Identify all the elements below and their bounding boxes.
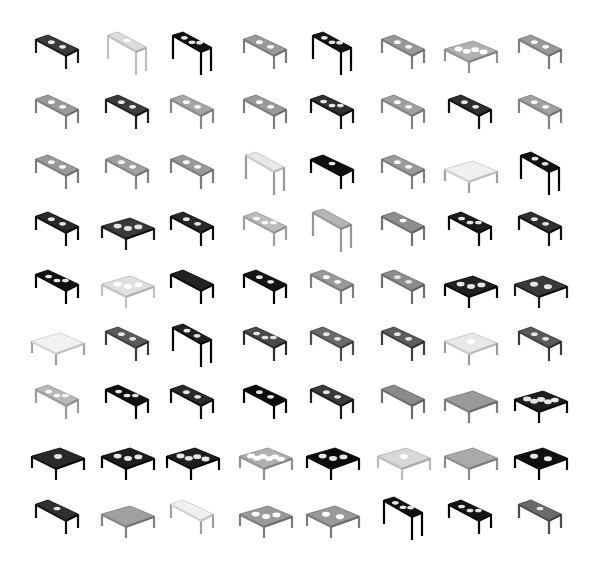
table-thumbnail bbox=[159, 319, 225, 375]
table-thumbnail bbox=[159, 204, 225, 260]
table-thumbnail bbox=[94, 377, 160, 433]
table-thumbnail bbox=[299, 492, 365, 548]
table-thumbnail bbox=[24, 87, 90, 143]
table-thumbnail bbox=[370, 87, 436, 143]
table-thumbnail bbox=[370, 377, 436, 433]
table-thumbnail bbox=[507, 147, 573, 203]
table-thumbnail bbox=[159, 492, 225, 548]
table-thumbnail bbox=[232, 492, 298, 548]
table-thumbnail bbox=[507, 262, 573, 318]
table-thumbnail bbox=[24, 147, 90, 203]
table-thumbnail bbox=[437, 147, 503, 203]
table-thumbnail bbox=[24, 377, 90, 433]
table-thumbnail bbox=[299, 147, 365, 203]
table-thumbnail bbox=[437, 204, 503, 260]
table-thumbnail bbox=[159, 27, 225, 83]
table-thumbnail bbox=[94, 204, 160, 260]
table-thumbnail bbox=[232, 434, 298, 490]
table-thumbnail bbox=[232, 262, 298, 318]
table-thumbnail bbox=[24, 434, 90, 490]
table-thumbnail bbox=[299, 434, 365, 490]
table-thumbnail bbox=[370, 319, 436, 375]
table-thumbnail bbox=[370, 147, 436, 203]
table-thumbnail bbox=[232, 147, 298, 203]
table-render-grid bbox=[0, 0, 603, 578]
table-thumbnail bbox=[370, 262, 436, 318]
table-thumbnail bbox=[159, 87, 225, 143]
table-thumbnail bbox=[299, 377, 365, 433]
table-thumbnail bbox=[437, 492, 503, 548]
table-thumbnail bbox=[94, 434, 160, 490]
table-thumbnail bbox=[232, 27, 298, 83]
table-thumbnail bbox=[299, 87, 365, 143]
table-thumbnail bbox=[24, 27, 90, 83]
table-thumbnail bbox=[159, 262, 225, 318]
table-thumbnail bbox=[94, 87, 160, 143]
table-thumbnail bbox=[507, 492, 573, 548]
table-thumbnail bbox=[299, 262, 365, 318]
table-thumbnail bbox=[232, 377, 298, 433]
table-thumbnail bbox=[94, 492, 160, 548]
table-thumbnail bbox=[437, 262, 503, 318]
table-thumbnail bbox=[299, 204, 365, 260]
table-thumbnail bbox=[507, 319, 573, 375]
table-thumbnail bbox=[299, 319, 365, 375]
table-thumbnail bbox=[159, 377, 225, 433]
table-thumbnail bbox=[437, 87, 503, 143]
table-thumbnail bbox=[507, 27, 573, 83]
table-thumbnail bbox=[507, 87, 573, 143]
table-thumbnail bbox=[437, 27, 503, 83]
table-thumbnail bbox=[94, 27, 160, 83]
table-thumbnail bbox=[94, 319, 160, 375]
table-thumbnail bbox=[24, 492, 90, 548]
table-thumbnail bbox=[370, 492, 436, 548]
table-thumbnail bbox=[232, 319, 298, 375]
table-thumbnail bbox=[159, 147, 225, 203]
table-thumbnail bbox=[370, 204, 436, 260]
table-thumbnail bbox=[94, 147, 160, 203]
table-thumbnail bbox=[370, 27, 436, 83]
table-thumbnail bbox=[437, 377, 503, 433]
table-thumbnail bbox=[437, 319, 503, 375]
table-thumbnail bbox=[507, 434, 573, 490]
table-thumbnail bbox=[370, 434, 436, 490]
table-thumbnail bbox=[507, 377, 573, 433]
table-thumbnail bbox=[437, 434, 503, 490]
table-thumbnail bbox=[24, 204, 90, 260]
table-thumbnail bbox=[232, 204, 298, 260]
table-thumbnail bbox=[299, 27, 365, 83]
table-thumbnail bbox=[24, 262, 90, 318]
table-thumbnail bbox=[24, 319, 90, 375]
table-thumbnail bbox=[94, 262, 160, 318]
table-thumbnail bbox=[507, 204, 573, 260]
table-thumbnail bbox=[232, 87, 298, 143]
table-thumbnail bbox=[159, 434, 225, 490]
